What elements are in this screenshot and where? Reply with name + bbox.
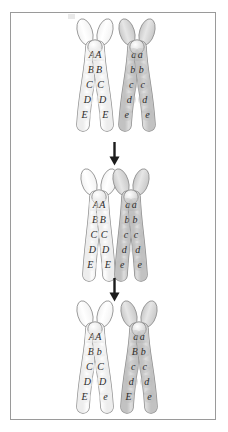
allele-bead: C xyxy=(94,78,107,91)
allele-bead: b xyxy=(137,345,150,358)
allele-bead: c xyxy=(138,360,151,373)
allele-bead: D xyxy=(96,93,109,106)
allele-bead: b xyxy=(135,63,148,76)
allele-bead: D xyxy=(96,375,109,388)
allele-bead: D xyxy=(86,243,99,256)
allele-bead: d xyxy=(138,93,151,106)
panel-top: ABCDEABCDEabcdeabcde xyxy=(11,19,217,139)
panel-middle: ABCDEABCDEabcdeabcde xyxy=(11,171,217,289)
allele-bead: E xyxy=(78,108,91,121)
allele-bead: E xyxy=(122,390,135,403)
chromosome-stage-top: ABCDEABCDEabcdeabcde xyxy=(11,19,217,139)
arrow-to-recombinants xyxy=(11,277,217,303)
allele-bead: d xyxy=(123,93,136,106)
arrow-down-icon xyxy=(109,278,120,302)
allele-bead: E xyxy=(78,390,91,403)
figure-frame: ABCDEABCDEabcdeabcde ABCDEABCDEabcdeabcd… xyxy=(10,12,216,420)
allele-bead: d xyxy=(125,375,138,388)
allele-bead: B xyxy=(93,63,106,76)
allele-bead: c xyxy=(136,78,149,91)
allele-bead: a xyxy=(134,48,147,61)
allele-bead: a xyxy=(136,330,149,343)
allele-bead: D xyxy=(81,93,94,106)
allele-labels: aBcdEabcde xyxy=(111,303,167,415)
allele-bead: e xyxy=(143,390,156,403)
panel-bottom: ABCDEAbCDeaBcdEabcde xyxy=(11,303,217,419)
allele-bead: e xyxy=(116,258,129,271)
arrow-down-icon xyxy=(109,142,120,166)
arrow-to-synapsis xyxy=(11,141,217,167)
chromosome-paternal-pair: aBcdEabcde xyxy=(111,303,167,415)
allele-bead: e xyxy=(99,390,112,403)
chromosome-paternal-pair: abcdeabcde xyxy=(109,21,165,133)
allele-bead: c xyxy=(130,228,143,241)
allele-bead: C xyxy=(94,360,107,373)
allele-labels: abcdeabcde xyxy=(109,21,165,133)
allele-bead: A xyxy=(92,330,105,343)
allele-bead: e xyxy=(120,108,133,121)
allele-labels: abcdeabcde xyxy=(103,171,159,283)
allele-bead: e xyxy=(141,108,154,121)
allele-bead: D xyxy=(81,375,94,388)
allele-bead: d xyxy=(131,243,144,256)
allele-bead: d xyxy=(118,243,131,256)
chromosome-stage-middle: ABCDEABCDEabcdeabcde xyxy=(11,171,217,289)
allele-bead: b xyxy=(93,345,106,358)
chromosome-paternal-pair: abcdeabcde xyxy=(103,171,159,283)
allele-bead: e xyxy=(133,258,146,271)
allele-bead: b xyxy=(128,213,141,226)
allele-bead: E xyxy=(84,258,97,271)
allele-bead: a xyxy=(128,198,141,211)
allele-bead: d xyxy=(140,375,153,388)
allele-bead: A xyxy=(92,48,105,61)
chromosome-stage-bottom: ABCDEAbCDeaBcdEabcde xyxy=(11,303,217,419)
